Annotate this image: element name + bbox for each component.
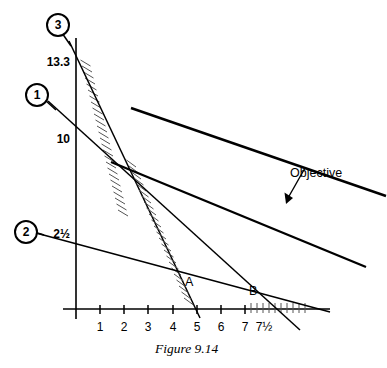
y-axis-label-2-5: 2½ (24, 228, 70, 240)
constraint-line-2 (36, 233, 330, 312)
x-axis-tick-label-2: 2 (114, 321, 134, 333)
x-axis-tick-label-1: 1 (90, 321, 110, 333)
constraint-badge-1-label: 1 (34, 89, 41, 101)
objective-lines-group (111, 108, 386, 267)
figure-9-14: 3 1 2 13.3 10 2½ 1 2 3 4 5 6 7 7½ A B Ob… (0, 0, 387, 368)
x-axis-hatching (251, 303, 305, 313)
constraint-badge-3[interactable]: 3 (46, 13, 70, 37)
y-axis-label-10: 10 (24, 133, 70, 145)
constraint-line-1 (48, 101, 300, 330)
x-axis-tick-label-7-5: 7½ (251, 321, 277, 333)
vertex-label-a: A (185, 276, 193, 289)
x-axis-tick-label-3: 3 (138, 321, 158, 333)
vertex-label-b: B (249, 285, 257, 298)
objective-annotation-label: Objective (290, 167, 342, 180)
figure-caption: Figure 9.14 (155, 341, 218, 357)
x-axis-tick-label-6: 6 (211, 321, 231, 333)
constraint-badge-1[interactable]: 1 (25, 83, 49, 107)
y-axis-label-13-3: 13.3 (24, 56, 70, 68)
x-axis-tick-label-4: 4 (163, 321, 183, 333)
objective-line-upper (131, 108, 386, 196)
x-axis-tick-label-5: 5 (187, 321, 207, 333)
constraint-badge-3-label: 3 (55, 19, 62, 31)
